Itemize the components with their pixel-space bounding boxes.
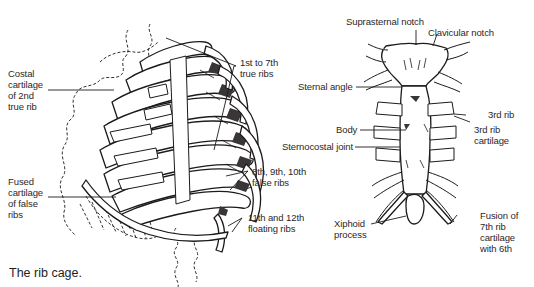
label-fusion-7th-rib-cartilage: Fusion of 7th rib cartilage with 6th [480,210,518,254]
rib-cage-figure [0,0,534,287]
label-costal-cartilage-2nd-rib: Costal cartilage of 2nd true rib [8,68,43,112]
label-false-ribs: 8th, 9th, 10th false ribs [252,166,306,188]
label-suprasternal-notch: Suprasternal notch [346,16,424,27]
figure-caption: The rib cage. [9,266,82,280]
label-true-ribs: 1st to 7th true ribs [240,57,278,79]
sternum-illustration [364,42,470,224]
label-fused-cartilage-false-ribs: Fused cartilage of false ribs [8,176,43,220]
label-clavicular-notch: Clavicular notch [428,27,494,38]
label-3rd-rib-cartilage: 3rd rib cartilage [474,124,509,146]
label-body: Body [336,124,357,135]
rib-cage-illustration [60,24,263,287]
label-sternal-angle: Sternal angle [298,81,353,92]
label-xiphoid-process: Xiphoid process [334,218,367,240]
label-floating-ribs: 11th and 12th floating ribs [248,212,304,234]
label-sternocostal-joint: Sternocostal joint [282,141,353,152]
label-3rd-rib: 3rd rib [488,109,514,120]
